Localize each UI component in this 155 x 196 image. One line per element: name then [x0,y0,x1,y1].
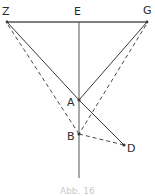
geometry-diagram: Z E G A B D Abb. 16 [0,0,155,196]
vertex-label-a: A [67,96,75,109]
vertex-label-z: Z [2,5,10,18]
segment-g-a [79,22,147,100]
vertex-dot-g [146,21,149,24]
vertex-label-d: D [127,142,135,155]
geometry-figure-container: Z E G A B D Abb. 16 [0,0,155,196]
vertex-dot-z [6,21,9,24]
vertex-label-b: B [67,130,75,143]
segment-g-b [79,25,146,134]
vertex-label-g: G [143,4,152,17]
figure-caption: Abb. 16 [60,186,95,196]
segment-b-d [79,134,124,145]
vertex-dot-b [77,132,80,135]
vertex-dot-d [122,143,125,146]
segment-z-a [7,22,79,100]
vertex-dot-a [77,98,80,101]
vertex-label-e: E [74,5,81,18]
segment-z-b [8,25,79,134]
